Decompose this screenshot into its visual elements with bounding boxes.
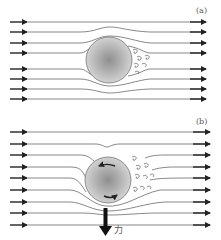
outflow-arrows-a bbox=[190, 22, 206, 99]
panel-a-label: (a) bbox=[196, 6, 207, 15]
outflow-arrows-b bbox=[193, 132, 210, 225]
sphere-a bbox=[86, 37, 132, 83]
panel-b-label: (b) bbox=[196, 117, 207, 126]
flow-diagram bbox=[0, 0, 221, 240]
inflow-arrows-a bbox=[10, 22, 27, 99]
force-label: 力 bbox=[114, 223, 123, 236]
inflow-arrows-b bbox=[10, 132, 27, 225]
force-arrow-icon bbox=[99, 208, 112, 236]
